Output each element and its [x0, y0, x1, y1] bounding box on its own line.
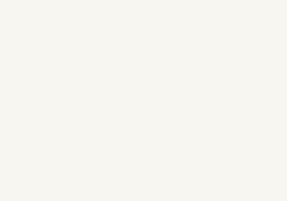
waveform-canvas [0, 0, 287, 201]
beats-waveform-figure [0, 0, 287, 201]
